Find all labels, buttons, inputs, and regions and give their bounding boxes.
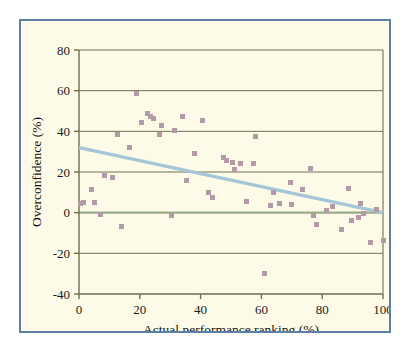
data-point [288,180,293,185]
data-point [206,190,211,195]
figure-root: -40-20020406080020406080100Actual perfor… [0,0,409,359]
data-point [277,201,282,206]
data-point [102,173,107,178]
data-point [110,175,115,180]
data-point [98,212,103,217]
data-point [115,132,120,137]
data-point [200,118,205,123]
scatter-chart: -40-20020406080020406080100Actual perfor… [21,21,389,331]
data-point [308,166,313,171]
data-point [289,202,294,207]
data-point [224,158,229,163]
x-tick-label-20: 20 [133,302,146,317]
data-point [253,134,258,139]
data-point [349,218,354,223]
data-point [361,211,366,216]
y-tick-label--40: -40 [53,287,70,302]
data-point [314,222,319,227]
y-axis-title: Overconfidence (%) [29,117,44,227]
data-point [262,271,267,276]
y-tick-label-60: 60 [57,83,70,98]
data-point [238,161,243,166]
data-point [358,201,363,206]
data-point [81,200,86,205]
data-point [139,120,144,125]
data-point [330,204,335,209]
y-tick-label--20: -20 [53,246,70,261]
data-point [169,213,174,218]
data-point [374,207,379,212]
y-tick-label-40: 40 [57,124,70,139]
y-tick-label-80: 80 [57,43,70,58]
data-point [339,227,344,232]
series-0-markers [78,91,385,276]
data-point [268,203,273,208]
data-point [251,161,256,166]
data-point [157,132,162,137]
data-point [230,160,235,165]
data-point [311,213,316,218]
data-point [192,151,197,156]
x-tick-label-100: 100 [373,302,389,317]
data-point [134,91,139,96]
y-tick-label-20: 20 [57,165,70,180]
x-axis-title: Actual performance ranking (%) [143,322,319,331]
data-point [271,190,276,195]
data-point [127,145,132,150]
data-point [119,224,124,229]
data-point [180,114,185,119]
y-tick-label-0: 0 [64,205,71,220]
data-point [172,128,177,133]
x-tick-label-80: 80 [316,302,329,317]
data-point [300,187,305,192]
data-point [381,238,386,243]
data-point [184,178,189,183]
x-tick-label-0: 0 [76,302,83,317]
data-point [92,200,97,205]
data-point [324,208,329,213]
data-point [356,215,361,220]
data-point [210,195,215,200]
data-point [159,123,164,128]
chart-svg: -40-20020406080020406080100Actual perfor… [21,21,389,331]
figure-frame: -40-20020406080020406080100Actual perfor… [19,19,391,333]
data-point [244,199,249,204]
data-point [346,186,351,191]
data-point [232,167,237,172]
trendline [79,148,383,213]
data-point [151,116,156,121]
x-tick-label-60: 60 [255,302,268,317]
data-point [89,187,94,192]
data-point [368,240,373,245]
x-tick-label-40: 40 [194,302,207,317]
